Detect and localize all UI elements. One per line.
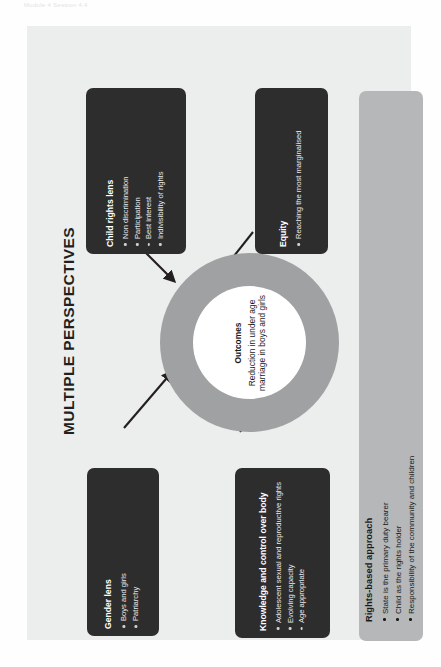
card-knowledge-and-control-over-body[interactable]: Knowledge and control over body Adolesce… [235, 468, 330, 638]
list-item: Best interest [144, 95, 154, 247]
card-bullet-list: Reaching the most marginalised [294, 95, 304, 247]
card-gender-lens[interactable]: Gender lens Boys and girls Patriarchy [87, 468, 159, 636]
outcome-core: Outcomes Reduction in under age marriage… [193, 286, 306, 399]
list-item: Participation [132, 95, 142, 247]
card-child-rights-lens[interactable]: Child rights lens Non discrimination Par… [86, 88, 186, 254]
card-rights-based-approach[interactable]: Rights-based approach State is the prima… [359, 91, 423, 641]
card-title: Gender lens [103, 475, 114, 629]
list-item: State is the primary duty bearer [380, 110, 391, 622]
list-item: Adolescent sexual and reproductive right… [273, 475, 283, 631]
card-title: Child rights lens [105, 95, 116, 247]
card-equity[interactable]: Equity Reaching the most marginalised [255, 88, 328, 254]
card-title: Rights-based approach [363, 110, 374, 622]
diagram-page: Module 4 Session 4.4 MULTIPLE PERSPECTIV… [0, 0, 441, 667]
list-item: Indivisibility of rights [156, 95, 166, 247]
list-item: Evolving capacity [285, 475, 295, 631]
card-title: Equity [278, 95, 289, 247]
list-item: Age appropriate [296, 475, 306, 631]
card-bullet-list: Non discrimination Participation Best in… [121, 95, 165, 247]
card-bullet-list: State is the primary duty bearer Child a… [380, 110, 417, 622]
diagram-panel: MULTIPLE PERSPECTIVES Outcomes Reduction… [27, 26, 411, 640]
list-item: Non discrimination [121, 95, 131, 247]
list-item: Reaching the most marginalised [294, 95, 304, 247]
list-item: Boys and girls [119, 475, 129, 629]
list-item: Patriarchy [131, 475, 141, 629]
outcome-heading: Outcomes [232, 293, 242, 393]
page-title: MULTIPLE PERSPECTIVES [60, 235, 78, 435]
outcome-body: Reduction in under age marriage in boys … [246, 293, 267, 393]
card-bullet-list: Boys and girls Patriarchy [119, 475, 140, 629]
arrow-gender-to-center [124, 372, 172, 428]
list-item: Responsibility of the community and chil… [406, 110, 417, 622]
card-bullet-list: Adolescent sexual and reproductive right… [273, 475, 306, 631]
list-item: Child as the rights holder [393, 110, 404, 622]
page-header-crumb: Module 4 Session 4.4 [24, 1, 194, 10]
card-title: Knowledge and control over body [257, 475, 268, 631]
